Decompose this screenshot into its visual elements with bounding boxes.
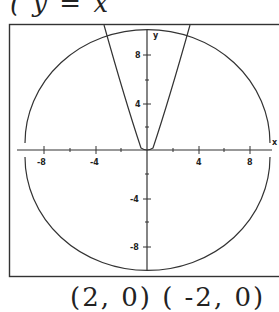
x-tick-label: -8 — [37, 158, 46, 167]
x-axis-label: x — [272, 138, 278, 147]
y-tick-label: -4 — [130, 195, 139, 204]
x-tick-label: 8 — [247, 158, 253, 167]
y-axis-label: y — [153, 31, 159, 40]
y-tick-label: -8 — [130, 243, 139, 252]
intersection-points-text: (2, 0) ( -2, 0) — [70, 282, 265, 312]
x-tick-label: 4 — [196, 158, 202, 167]
y-tick-label: 4 — [135, 100, 141, 109]
x-tick-label: -4 — [90, 158, 99, 167]
y-tick-label: 8 — [135, 51, 141, 60]
